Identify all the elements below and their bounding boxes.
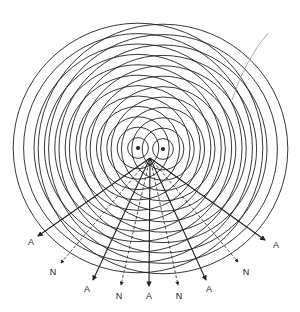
interference-diagram: ANANANANA — [0, 0, 300, 312]
right-source — [161, 147, 165, 151]
nodal-antinodal-lines — [38, 158, 265, 286]
node-label: N — [243, 267, 250, 277]
wavefront-rings — [13, 23, 288, 274]
left-source — [136, 146, 140, 150]
node-label: N — [176, 291, 183, 301]
source-points — [136, 146, 165, 151]
stray-line — [232, 33, 268, 100]
antinode-label: A — [146, 291, 152, 301]
node-label: N — [116, 291, 123, 301]
antinode-label: A — [84, 284, 90, 294]
antinode-label: A — [206, 284, 212, 294]
antinode-label: A — [273, 240, 279, 250]
nodal-line — [121, 158, 150, 285]
node-label: N — [50, 267, 57, 277]
antinode-label: A — [28, 237, 34, 247]
